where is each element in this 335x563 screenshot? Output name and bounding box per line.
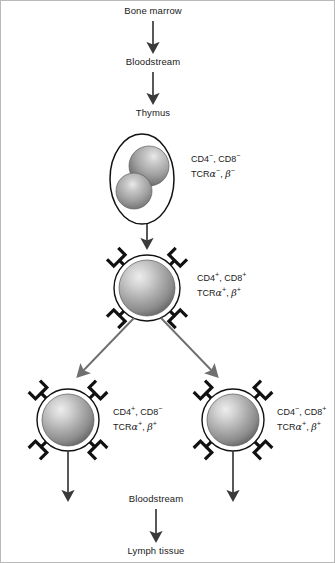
diagram-canvas xyxy=(1,1,335,563)
cell-double-negative xyxy=(110,134,174,224)
markers-cd8-line2: TCRα+, β+ xyxy=(277,420,326,435)
arrow-branch-left xyxy=(81,318,134,373)
markers-dp-line1: CD4+, CD8+ xyxy=(197,271,246,286)
markers-double-negative: CD4−, CD8− TCRα−, β− xyxy=(191,152,240,181)
markers-dn-line2: TCRα−, β− xyxy=(191,167,240,182)
arrow-branch-right xyxy=(161,318,214,373)
cell-cd4-single-positive xyxy=(30,382,106,458)
markers-cd8-line1: CD4−, CD8+ xyxy=(277,405,326,420)
label-lymph-tissue: Lymph tissue xyxy=(128,545,185,556)
markers-dp-line2: TCRα+, β+ xyxy=(197,286,246,301)
cell-double-positive xyxy=(108,249,186,327)
label-thymus: Thymus xyxy=(136,107,170,118)
markers-cd4-line1: CD4+, CD8− xyxy=(113,405,162,420)
markers-cd4-single-positive: CD4+, CD8− TCRα+, β+ xyxy=(113,405,162,434)
label-bloodstream-bottom: Bloodstream xyxy=(129,493,183,504)
label-bloodstream-top: Bloodstream xyxy=(126,56,180,67)
markers-double-positive: CD4+, CD8+ TCRα+, β+ xyxy=(197,271,246,300)
t-cell-maturation-figure: Bone marrow Bloodstream Thymus Bloodstre… xyxy=(0,0,335,563)
markers-dn-line1: CD4−, CD8− xyxy=(191,152,240,167)
markers-cd4-line2: TCRα+, β+ xyxy=(113,420,162,435)
label-bone-marrow: Bone marrow xyxy=(124,5,182,16)
markers-cd8-single-positive: CD4−, CD8+ TCRα+, β+ xyxy=(277,405,326,434)
cell-cd8-single-positive xyxy=(195,382,271,458)
